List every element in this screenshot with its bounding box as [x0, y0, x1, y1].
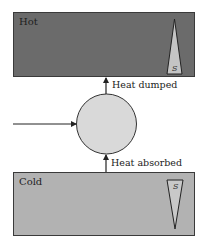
cold-entropy-symbol: S — [173, 182, 179, 191]
hot-entropy-symbol: S — [172, 64, 178, 73]
diagram-graphics: S S — [0, 0, 208, 245]
hot-entropy-triangle-icon: S — [167, 19, 182, 74]
engine-circle — [77, 94, 137, 154]
heat-dumped-label: Heat dumped — [112, 79, 177, 90]
cold-entropy-triangle-icon: S — [167, 180, 183, 229]
heat-absorbed-label: Heat absorbed — [111, 157, 182, 168]
